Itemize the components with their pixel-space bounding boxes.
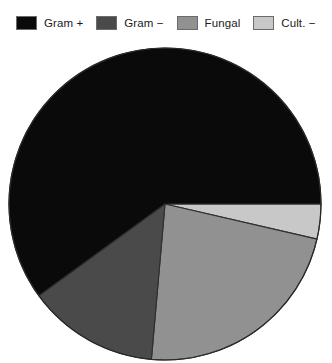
pie-chart-plot-area [0, 0, 332, 363]
pie-chart-svg [0, 0, 332, 363]
pie-slice-group [9, 48, 321, 360]
pie-chart-figure: Gram + Gram − Fungal Cult. − [0, 0, 332, 363]
